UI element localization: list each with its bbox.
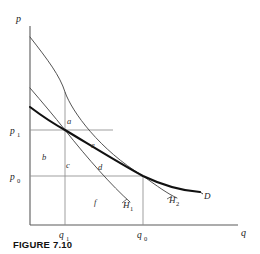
region-label-c: c (66, 160, 70, 170)
curve-hicksian-h1 (30, 88, 130, 202)
curve-label-d-base: D (203, 191, 211, 201)
curve-label-d: D (203, 191, 211, 201)
region-label-d: d (98, 162, 103, 172)
x-tick-q0: q 0 (137, 230, 147, 242)
curve-label-h2-subscript: 2 (176, 200, 179, 207)
region-label-a: a (67, 116, 71, 126)
curve-label-h1-base: H (122, 200, 130, 210)
y-tick-p1: p 1 (9, 126, 20, 138)
figure-container: p q p 1 p 0 q 1 q 0 H 1 H 2 D (0, 0, 260, 254)
curve-hicksian-h2 (30, 37, 177, 198)
curve-label-h2-base: H (168, 195, 176, 205)
y-tick-p1-base: p (9, 126, 15, 136)
leader-d (200, 192, 203, 194)
region-label-e: e (91, 140, 95, 150)
curve-label-h2: H 2 (168, 195, 179, 207)
y-tick-p0-base: p (9, 172, 15, 182)
region-label-f: f (94, 197, 98, 207)
x-axis-label: q (241, 227, 246, 238)
x-tick-q0-base: q (137, 230, 142, 240)
region-label-b: b (42, 152, 46, 162)
y-axis-label: p (15, 13, 21, 24)
x-tick-q0-subscript: 0 (144, 235, 147, 242)
curve-marshallian-demand (30, 107, 200, 192)
y-tick-p1-subscript: 1 (17, 131, 20, 138)
figure-caption: FIGURE 7.10 (13, 239, 72, 250)
y-tick-p0: p 0 (9, 172, 20, 184)
curve-label-h1-subscript: 1 (130, 205, 133, 212)
curves-group (30, 37, 200, 202)
y-tick-p0-subscript: 0 (17, 177, 20, 184)
curve-label-leaders (122, 192, 203, 203)
demand-curve-diagram: p q p 1 p 0 q 1 q 0 H 1 H 2 D (0, 0, 260, 254)
